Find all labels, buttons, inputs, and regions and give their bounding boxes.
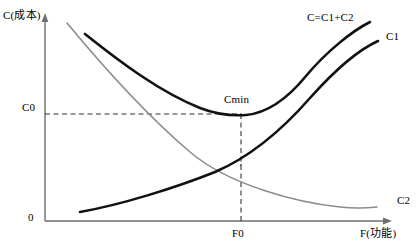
cmin-point-marker [240, 113, 242, 115]
curve-label-total: C=C1+C2 [307, 12, 354, 23]
y-axis [42, 13, 49, 221]
value-engineering-cost-chart: C(成本) F(功能) 0 C0 F0 Cmin C=C1+C2 C1 C2 [0, 0, 419, 249]
y-axis-label: C(成本) [3, 10, 41, 21]
x-axis [45, 218, 392, 225]
curve-c1 [80, 41, 378, 212]
x-tick-label-f0: F0 [232, 228, 244, 239]
x-axis-label: F(功能) [360, 228, 396, 239]
c1-c2-intersection-marker [240, 164, 242, 166]
chart-canvas [0, 0, 419, 249]
cmin-label: Cmin [224, 94, 249, 105]
curve-label-c2: C2 [397, 195, 410, 206]
origin-label: 0 [28, 212, 34, 223]
y-tick-label-c0: C0 [22, 102, 35, 113]
curve-label-c1: C1 [386, 31, 399, 42]
